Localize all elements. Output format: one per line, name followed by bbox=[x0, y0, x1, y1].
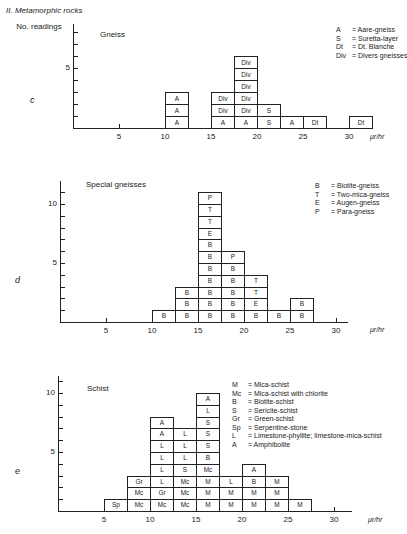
bar-cell: B bbox=[198, 263, 222, 276]
legend-code: A bbox=[232, 441, 246, 450]
equals-sign: = bbox=[350, 43, 358, 50]
bar-cell: P bbox=[221, 251, 245, 264]
legend-label: Limestone-phyllite; limestone-mica-schis… bbox=[254, 432, 382, 439]
legend: M = Mica-schistMc = Mica-schist with chl… bbox=[232, 381, 382, 449]
y-tick bbox=[60, 192, 65, 193]
bar-cell: B bbox=[290, 310, 314, 323]
bar-cell: S bbox=[196, 428, 220, 441]
bar-cell: M bbox=[196, 487, 220, 500]
legend-label: Serpentine-stone bbox=[254, 424, 307, 431]
equals-sign: = bbox=[246, 415, 254, 422]
x-tick-label: 20 bbox=[232, 515, 252, 524]
bar-cell: M bbox=[265, 499, 289, 512]
bar-cell: Dt bbox=[303, 116, 327, 129]
legend-code: A bbox=[336, 26, 350, 35]
y-tick bbox=[58, 428, 63, 429]
panel-letter: e bbox=[15, 466, 20, 476]
legend-label: Aare-gneiss bbox=[358, 26, 395, 33]
bar-cell: L bbox=[150, 452, 174, 465]
x-tick bbox=[119, 124, 120, 128]
y-tick bbox=[58, 381, 63, 382]
legend-label: Divers gneisses bbox=[358, 52, 407, 59]
y-tick bbox=[60, 275, 65, 276]
x-tick-label: 15 bbox=[188, 326, 208, 335]
x-tick-label: 25 bbox=[278, 515, 298, 524]
legend-item: Mc = Mica-schist with chlorite bbox=[232, 390, 382, 399]
legend-code: S bbox=[232, 407, 246, 416]
bar-cell: T bbox=[244, 287, 268, 300]
y-axis bbox=[58, 376, 59, 511]
y-tick-label: 5 bbox=[43, 258, 57, 267]
legend-code: T bbox=[315, 191, 329, 200]
bar-cell: E bbox=[244, 298, 268, 311]
bar-cell: M bbox=[242, 487, 266, 500]
y-tick bbox=[58, 440, 63, 441]
legend-code: L bbox=[232, 432, 246, 441]
x-tick-label: 30 bbox=[326, 326, 346, 335]
x-tick-label: 10 bbox=[155, 132, 175, 141]
bar-cell: Dt bbox=[349, 116, 373, 129]
bar-cell: B bbox=[175, 310, 199, 323]
bar-cell: L bbox=[173, 428, 197, 441]
bar-cell: Div bbox=[234, 56, 258, 69]
y-axis-label: No. readings bbox=[14, 22, 64, 31]
panel-letter: d bbox=[15, 275, 20, 285]
y-tick bbox=[58, 464, 63, 465]
equals-sign: = bbox=[350, 35, 358, 42]
bar-cell: A bbox=[150, 428, 174, 441]
bar-cell: Mc bbox=[150, 499, 174, 512]
bar-cell: Div bbox=[234, 80, 258, 93]
legend-item: Div = Divers gneisses bbox=[336, 52, 407, 61]
equals-sign: = bbox=[350, 52, 358, 59]
y-tick bbox=[73, 92, 78, 93]
x-tick-label: 20 bbox=[234, 326, 254, 335]
y-tick-label: 10 bbox=[43, 199, 57, 208]
y-tick bbox=[60, 298, 65, 299]
legend-label: Para-gneiss bbox=[337, 208, 374, 215]
x-tick-label: 20 bbox=[247, 132, 267, 141]
y-tick-label: 10 bbox=[41, 388, 55, 397]
bar-cell: B bbox=[198, 287, 222, 300]
bar-cell: M bbox=[196, 499, 220, 512]
bar-cell: Div bbox=[211, 104, 235, 117]
bar-cell: A bbox=[165, 116, 189, 129]
x-axis-unit: μr/hr bbox=[368, 516, 382, 523]
y-tick-label: 5 bbox=[41, 447, 55, 456]
y-tick bbox=[58, 499, 63, 500]
y-tick bbox=[73, 68, 78, 69]
legend-code: B bbox=[232, 398, 246, 407]
x-tick-label: 10 bbox=[140, 515, 160, 524]
legend-item: A = Aare-gneiss bbox=[336, 26, 407, 35]
bar-cell: M bbox=[219, 499, 243, 512]
bar-cell: L bbox=[173, 440, 197, 453]
x-tick-label: 15 bbox=[186, 515, 206, 524]
bar-cell: Mc bbox=[127, 499, 151, 512]
legend-label: Green-schist bbox=[254, 415, 294, 422]
y-tick bbox=[58, 393, 63, 394]
legend-label: Augen-gneiss bbox=[337, 199, 380, 206]
bar-cell: T bbox=[244, 275, 268, 288]
bar-cell: M bbox=[242, 499, 266, 512]
bar-cell: Div bbox=[234, 92, 258, 105]
bar-cell: B bbox=[244, 310, 268, 323]
legend-item: Gr = Green-schist bbox=[232, 415, 382, 424]
x-tick bbox=[106, 318, 107, 322]
bar-cell: A bbox=[165, 92, 189, 105]
legend-item: S = Sericite-schist bbox=[232, 407, 382, 416]
legend-item: A = Amphibolite bbox=[232, 441, 382, 450]
y-tick bbox=[58, 487, 63, 488]
y-tick bbox=[73, 56, 78, 57]
bar-cell: L bbox=[219, 476, 243, 489]
equals-sign: = bbox=[329, 199, 337, 206]
legend-label: Mica-schist bbox=[254, 381, 289, 388]
legend-code: S bbox=[336, 35, 350, 44]
y-tick bbox=[60, 228, 65, 229]
bar-cell: Div bbox=[211, 92, 235, 105]
bar-cell: M bbox=[265, 487, 289, 500]
bar-cell: T bbox=[198, 216, 222, 229]
x-tick-label: 10 bbox=[142, 326, 162, 335]
bar-cell: B bbox=[290, 298, 314, 311]
bar-cell: Mc bbox=[173, 476, 197, 489]
bar-cell: S bbox=[196, 440, 220, 453]
legend-code: Div bbox=[336, 52, 350, 61]
